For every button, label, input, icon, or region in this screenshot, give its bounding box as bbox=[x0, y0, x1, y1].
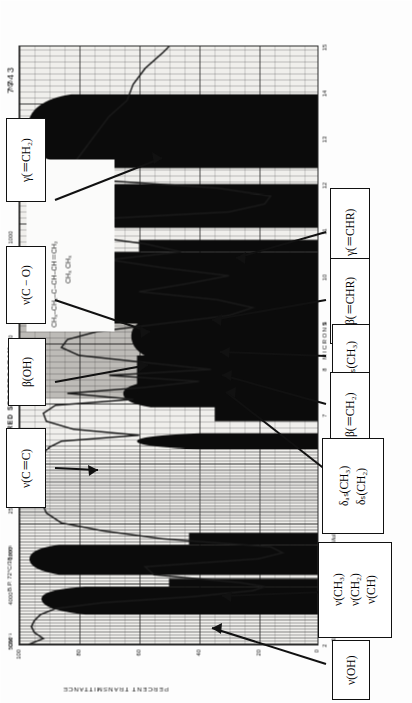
callout-beta-ch2-label: β(＝CH₂) bbox=[342, 393, 359, 438]
spectrum-trace bbox=[19, 46, 318, 644]
structure-substituents: CH₃ CH₃ bbox=[64, 255, 71, 283]
callout-delta-pair[interactable]: δₐₛ(CH₃) δₛ(CH₂) bbox=[322, 438, 384, 534]
callout-nu-c-o-label: ν(C − O) bbox=[18, 265, 35, 305]
callout-nu-c-o[interactable]: ν(C − O) bbox=[6, 246, 46, 324]
structure-backbone: CH₃–CH₂–C–CH–CH＝CH₂ bbox=[48, 241, 58, 327]
wn-tick-5000: 5000 bbox=[7, 636, 13, 649]
spectrum-plot-area bbox=[18, 45, 318, 645]
mic-tick-14: 14 bbox=[321, 90, 327, 97]
ytick-0: 0 bbox=[313, 649, 319, 665]
callout-beta-oh-label: β(OH) bbox=[19, 357, 36, 387]
callout-nu-oh[interactable]: ν(OH) bbox=[332, 640, 370, 700]
callout-nu-c-c[interactable]: ν(C＝C) bbox=[6, 428, 46, 508]
callout-delta-as-ch3-label: δₐₛ(CH₃) bbox=[336, 466, 353, 506]
mic-tick-10: 10 bbox=[321, 274, 327, 281]
mic-tick-2: 2 bbox=[321, 643, 327, 646]
ytick-60: 60 bbox=[135, 649, 141, 665]
callout-gamma-chr-label: γ(＝CHR) bbox=[342, 208, 359, 255]
mic-tick-12: 12 bbox=[321, 182, 327, 189]
ytick-20: 20 bbox=[255, 649, 261, 665]
wn-tick-700: 700 bbox=[7, 80, 13, 90]
ytick-100: 100 bbox=[15, 649, 21, 665]
callout-delta-s-ch2-label: δₛ(CH₂) bbox=[353, 467, 370, 504]
mic-tick-8: 8 bbox=[321, 367, 327, 370]
callout-nu-oh-label: ν(OH) bbox=[343, 655, 360, 684]
callout-nu-ch-label: ν(CH) bbox=[363, 576, 380, 605]
x-axis-title: MICRONS bbox=[320, 320, 327, 359]
callout-nu-c-c-label: ν(C＝C) bbox=[18, 448, 35, 487]
callout-beta-chr-label: β(＝CHR) bbox=[342, 277, 359, 325]
ytick-80: 80 bbox=[75, 649, 81, 665]
callout-gamma-ch2[interactable]: γ(＝CH₂) bbox=[6, 118, 46, 202]
mic-tick-15: 15 bbox=[321, 44, 327, 51]
callout-beta-oh[interactable]: β(OH) bbox=[8, 338, 46, 406]
wn-tick-1000: 1000 bbox=[7, 230, 13, 243]
mic-tick-13: 13 bbox=[321, 136, 327, 143]
callout-nu-ch-trio[interactable]: ν(CH₃) ν(CH₂) ν(CH) bbox=[318, 542, 392, 638]
callout-gamma-ch2-label: γ(＝CH₂) bbox=[18, 138, 35, 182]
ytick-40: 40 bbox=[195, 649, 201, 665]
callout-nu-ch3-label: ν(CH₃) bbox=[330, 574, 347, 607]
wn-tick-4000: 4000 bbox=[7, 591, 13, 604]
y-axis-title: PERCENT TRANSMITTANCE bbox=[62, 686, 168, 693]
callout-nu-ch2-label: ν(CH₂) bbox=[347, 574, 364, 607]
wn-tick-3000: 3000 bbox=[7, 546, 13, 559]
mic-tick-11: 11 bbox=[321, 228, 327, 234]
mic-tick-7: 7 bbox=[321, 413, 327, 416]
screenshot-canvas: 7743 INFRA-RED SPECTROGRAM n20D 1.4444 B… bbox=[0, 0, 412, 703]
